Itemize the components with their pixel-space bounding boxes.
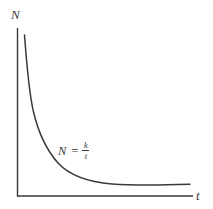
plot-canvas: [0, 0, 213, 209]
fraction-denominator: t: [84, 151, 88, 160]
x-axis-label: t: [196, 189, 200, 202]
equation-lhs: N: [58, 145, 66, 158]
fraction-numerator: k: [83, 141, 89, 150]
hyperbola-curve: [25, 35, 191, 185]
equation-fraction: k t: [82, 141, 89, 161]
equation-annotation: N = k t: [58, 141, 89, 161]
y-axis-label: N: [11, 8, 20, 21]
hyperbola-figure: N t N = k t: [0, 0, 213, 209]
equation-equals-sign: =: [71, 145, 78, 158]
